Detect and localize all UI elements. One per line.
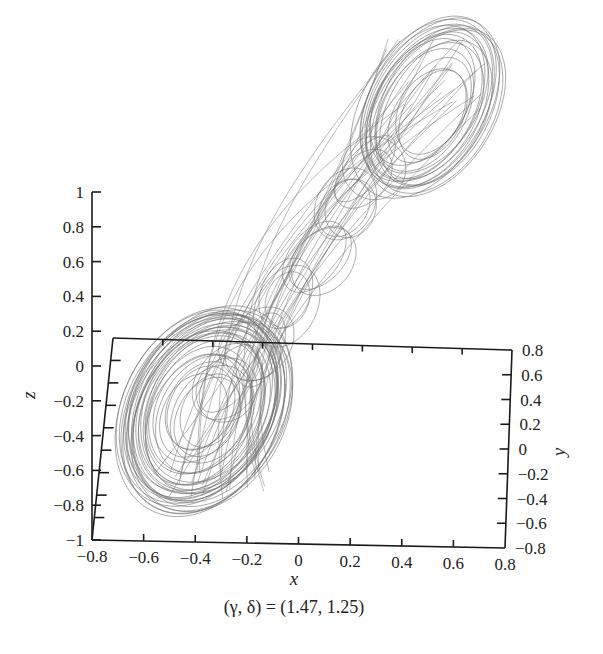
left-depth-edge (92, 338, 113, 540)
figure-caption: (γ, δ) = (1.47, 1.25) (224, 597, 365, 618)
z-axis-label: z (18, 391, 39, 400)
x-tick-label: 0.6 (443, 554, 464, 573)
z-tick-label: −0.6 (53, 461, 84, 480)
y-tick-label: −0.4 (517, 490, 548, 509)
y-tick-label: 0.8 (522, 341, 543, 360)
y-tick-label: 0.2 (519, 415, 540, 434)
x-tick-label: −0.4 (180, 549, 211, 568)
y-tick-label: 0.4 (520, 391, 542, 410)
x-tick-label: −0.2 (231, 550, 262, 569)
attractor-figure: 10.80.60.40.20−0.2−0.4−0.6−0.8−1−0.8−0.6… (0, 0, 603, 654)
x-axis-label: x (289, 568, 299, 589)
attractor-trajectory (115, 16, 505, 516)
trajectory-segment (202, 94, 481, 496)
x-tick-label: 0.4 (391, 553, 413, 572)
z-tick-label: 0.6 (63, 253, 84, 272)
x-tick-label: 0.2 (340, 552, 361, 571)
trajectory-segment (260, 55, 423, 472)
z-tick-label: −0.8 (53, 496, 84, 515)
z-tick-label: −0.4 (53, 427, 84, 446)
trajectory-segment (198, 102, 453, 471)
z-tick-label: 0.2 (63, 322, 84, 341)
z-tick-label: 0 (76, 357, 85, 376)
x-tick-label: −0.8 (77, 547, 108, 566)
z-tick-label: 0.8 (63, 218, 84, 237)
y-tick-label: 0 (519, 440, 528, 459)
z-tick-label: −0.2 (53, 392, 84, 411)
y-axis-label: y (548, 447, 569, 458)
y-tick-label: −0.2 (518, 465, 549, 484)
z-tick-label: 0.4 (63, 287, 85, 306)
y-tick-label: −0.6 (516, 514, 547, 533)
x-tick-label: 0.8 (494, 555, 515, 574)
trajectory-segment (168, 40, 433, 498)
y-tick-label: −0.8 (515, 539, 546, 558)
trajectory-segment (255, 65, 452, 478)
z-tick-label: 1 (76, 183, 85, 202)
y-tick-label: 0.6 (521, 366, 542, 385)
x-tick-label: −0.6 (128, 548, 159, 567)
